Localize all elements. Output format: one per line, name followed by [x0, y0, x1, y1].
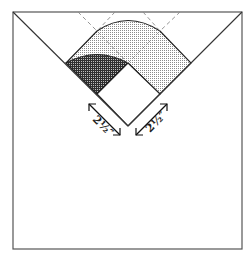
folding-diagram: 2½″ 2½″: [0, 0, 251, 260]
